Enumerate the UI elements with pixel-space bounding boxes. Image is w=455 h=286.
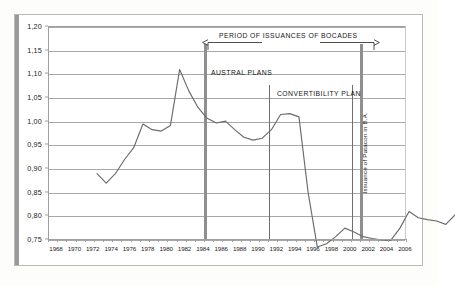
x-axis-tick-mark [76,239,77,242]
y-axis-tick-label: 1,00 [27,116,42,125]
x-axis-tick-mark [323,239,324,242]
y-axis-tick-mark [45,97,48,98]
plot-area [48,26,406,239]
x-axis-tick-mark [388,239,389,242]
x-axis-tick-label: 2004 [380,245,393,252]
y-axis-tick-mark [45,73,48,74]
x-axis-tick-label: 1992 [270,245,283,252]
y-axis-tick-mark [45,49,48,50]
x-axis-tick-label: 2002 [361,245,374,252]
x-axis-tick-label: 1994 [288,245,301,252]
x-axis-tick-mark [333,239,334,242]
annotation-patacon-issuance: Issuance of Patacon in B.A. [361,112,368,193]
x-axis-tick-mark [121,239,122,242]
x-axis-tick-mark [131,239,132,242]
x-axis-tick-mark [287,239,288,242]
x-axis-tick-mark [378,239,379,242]
x-axis-tick-label: 1978 [141,245,154,252]
y-axis-tick-label: 0,85 [27,187,42,196]
y-axis-tick-mark [45,144,48,145]
x-axis-tick-label: 1986 [215,245,228,252]
x-axis-tick-mark [314,239,315,242]
x-axis-tick-mark [277,239,278,242]
x-axis-tick-label: 1968 [49,245,62,252]
x-axis-tick-mark [85,239,86,242]
x-axis-tick-mark [241,239,242,242]
x-axis-tick-label: 1980 [159,245,172,252]
x-axis-tick-mark [296,239,297,242]
x-axis-tick-mark [149,239,150,242]
gridline [49,27,405,28]
x-axis-tick-label: 1984 [196,245,209,252]
y-axis-tick-label: 1,10 [27,69,42,78]
x-axis-line [48,239,406,240]
x-axis-tick-mark [94,239,95,242]
annotation-convertibility-plan: CONVERTIBILITY PLAN [277,90,361,97]
x-axis-tick-label: 1990 [251,245,264,252]
x-axis-tick-mark [195,239,196,242]
x-axis-tick-mark [158,239,159,242]
y-axis-tick-mark [45,26,48,27]
x-axis-tick-label: 1970 [68,245,81,252]
x-axis-tick-mark [259,239,260,242]
x-axis-tick-mark [305,239,306,242]
y-axis-tick-label: 1,20 [27,22,42,31]
x-axis-tick-mark [177,239,178,242]
x-axis-tick-mark [112,239,113,242]
x-axis-tick-mark [250,239,251,242]
y-axis-tick-label: 1,15 [27,45,42,54]
y-axis-tick-mark [45,191,48,192]
x-axis-tick-label: 1988 [233,245,246,252]
y-axis-tick-label: 0,80 [27,211,42,220]
x-axis-tick-mark [57,239,58,242]
x-axis-tick-label: 1996 [306,245,319,252]
gridline [49,51,405,52]
x-axis-tick-mark [369,239,370,242]
x-axis-tick-label: 1982 [178,245,191,252]
x-axis-tick-mark [406,239,407,242]
x-axis-tick-mark [351,239,352,242]
x-axis-tick-mark [186,239,187,242]
x-axis-tick-mark [268,239,269,242]
y-axis-tick-label: 0,90 [27,164,42,173]
x-axis-tick-mark [103,239,104,242]
x-axis-tick-mark [213,239,214,242]
x-axis-tick-mark [397,239,398,242]
x-axis-tick-mark [360,239,361,242]
y-axis-tick-mark [45,120,48,121]
x-axis-tick-label: 1976 [123,245,136,252]
x-axis-tick-mark [232,239,233,242]
x-axis-tick-mark [222,239,223,242]
x-axis-tick-mark [204,239,205,242]
x-axis-tick-mark [66,239,67,242]
annotation-austral-plans: AUSTRAL PLANS [211,69,272,76]
x-axis-tick-label: 1972 [86,245,99,252]
data-line-series [97,53,455,266]
x-axis-tick-label: 1974 [104,245,117,252]
x-axis-tick-label: 2006 [398,245,411,252]
x-axis-tick-mark [48,239,49,242]
y-axis-tick-mark [45,168,48,169]
x-axis-tick-label: 1998 [325,245,338,252]
annotation-bocades-period: PERIOD OF ISSUANCES OF BOCADES [219,32,358,39]
x-axis-tick-label: 2000 [343,245,356,252]
x-axis-tick-mark [167,239,168,242]
y-axis-tick-label: 0,95 [27,140,42,149]
x-axis-tick-mark [140,239,141,242]
scan-gutter-bar [15,15,19,265]
y-axis-tick-mark [45,215,48,216]
y-axis-tick-label: 1,05 [27,93,42,102]
x-axis-tick-mark [342,239,343,242]
y-axis-tick-label: 0,75 [27,235,42,244]
